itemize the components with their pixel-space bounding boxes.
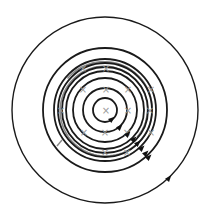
- cross-into-page-icon: ×: [123, 147, 131, 158]
- cross-into-page-icon: ×: [102, 63, 110, 74]
- coil-lead: [57, 140, 62, 146]
- cross-into-page-icon: ×: [101, 147, 109, 158]
- cross-into-page-icon: ×: [146, 105, 154, 116]
- cross-into-page-icon: ×: [124, 84, 132, 95]
- cross-into-page-icon: ×: [147, 84, 155, 95]
- cross-into-page-icon: ×: [102, 84, 110, 95]
- field-lines-canvas: ××××××××××××××××: [0, 0, 208, 218]
- field-diagram: Magnetic field lines around a coil (conc…: [0, 0, 208, 218]
- cross-into-page-icon: ×: [79, 63, 87, 74]
- cross-into-page-icon: ×: [101, 127, 109, 138]
- cross-into-page-icon: ×: [79, 84, 87, 95]
- cross-into-page-icon: ×: [57, 105, 65, 116]
- cross-into-page-icon: ×: [147, 127, 155, 138]
- cross-into-page-icon: ×: [124, 105, 132, 116]
- cross-into-page-icon: ×: [102, 105, 110, 116]
- cross-into-page-icon: ×: [80, 127, 88, 138]
